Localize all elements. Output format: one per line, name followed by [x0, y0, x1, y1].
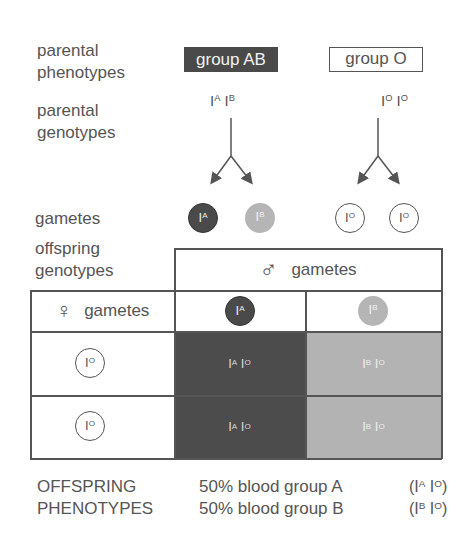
gamete-ia: IA — [188, 203, 218, 233]
gamete-io: IO — [335, 203, 365, 233]
header-label: gametes — [291, 260, 356, 280]
label-gametes: gametes — [35, 208, 100, 230]
offspring-cell: IA IO — [174, 331, 305, 395]
label-line: offspring — [35, 238, 113, 260]
result-genotype: (IB IO) — [409, 498, 447, 520]
heading-line: PHENOTYPES — [37, 498, 153, 520]
grid-line — [30, 395, 442, 397]
results-text: 50% blood group A 50% blood group B — [199, 476, 344, 520]
segregation-arrows-icon — [0, 0, 475, 200]
grid-line — [305, 290, 307, 459]
grid-line — [30, 458, 442, 460]
female-gamete-io: IO — [75, 411, 105, 441]
male-symbol-icon: ♂ — [259, 256, 277, 284]
female-symbol-icon: ♀ — [56, 298, 73, 324]
grid-line — [30, 331, 442, 333]
label-offspring-genotypes: offspring genotypes — [35, 238, 113, 282]
results-heading: OFFSPRING PHENOTYPES — [37, 476, 153, 520]
female-gametes-header: ♀ gametes — [31, 291, 174, 331]
male-gametes-header: ♂ gametes — [174, 249, 442, 290]
header-label: gametes — [84, 301, 149, 321]
gamete-io: IO — [389, 203, 419, 233]
offspring-cell: IB IO — [305, 331, 442, 395]
heading-line: OFFSPRING — [37, 476, 153, 498]
offspring-cell: IA IO — [174, 395, 305, 458]
result-row: 50% blood group A — [199, 476, 344, 498]
result-row: 50% blood group B — [199, 498, 344, 520]
gamete-ib: IB — [245, 203, 275, 233]
offspring-cell: IB IO — [305, 395, 442, 458]
results-genotypes: (IA IO) (IB IO) — [409, 476, 447, 520]
result-genotype: (IA IO) — [409, 476, 447, 498]
male-gamete-ia: IA — [225, 296, 255, 326]
male-gamete-ib: IB — [358, 296, 388, 326]
female-gamete-io: IO — [75, 348, 105, 378]
label-line: genotypes — [35, 260, 113, 282]
